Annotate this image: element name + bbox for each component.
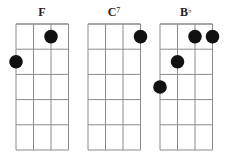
finger-dot (44, 30, 58, 44)
chord-grid (76, 0, 152, 158)
finger-dot (9, 55, 23, 69)
chord-grid (148, 0, 224, 158)
finger-dot (206, 30, 220, 44)
finger-dot (153, 80, 167, 94)
chord-c7: C7 (76, 0, 152, 158)
finger-dot (134, 30, 148, 44)
chord-f: F (4, 0, 80, 158)
finger-dot (171, 55, 185, 69)
finger-dot (188, 30, 202, 44)
chord-bflat: B♭ (148, 0, 224, 158)
chord-grid (4, 0, 80, 158)
